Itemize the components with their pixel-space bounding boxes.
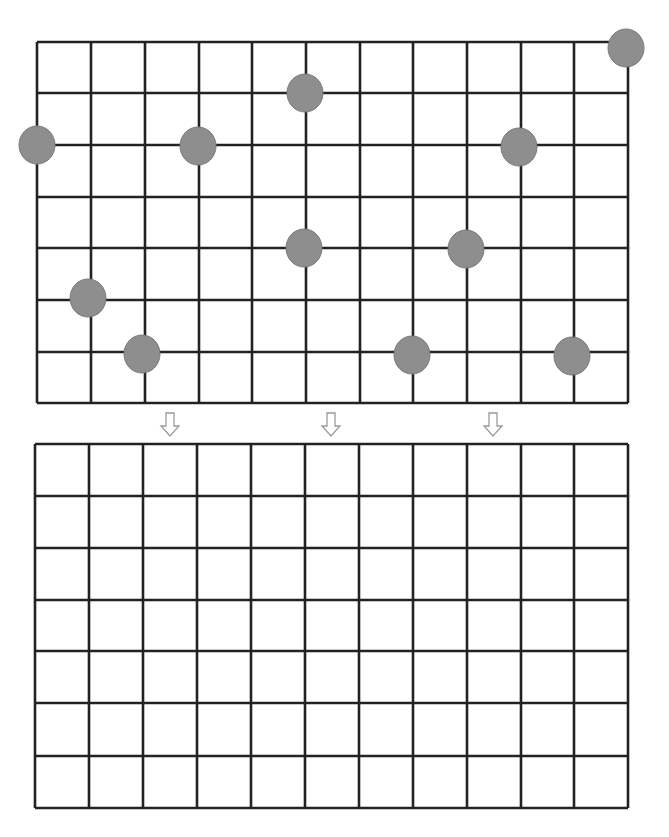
grid-dot [608,29,644,67]
grid-dot [287,74,323,112]
down-arrow-icon [161,413,179,436]
grid-dot [394,336,430,374]
grid-dot [180,127,216,165]
top-grid-dots [19,29,644,375]
grid-dot [124,335,160,373]
grid-dot [448,230,484,268]
down-arrow-icon [322,413,340,436]
diagram-canvas [0,0,669,837]
grid-dot [501,128,537,166]
down-arrow-icon [484,413,502,436]
down-arrows [161,413,502,436]
grid-dot [286,229,322,267]
grid-dot [19,126,55,164]
bottom-grid [35,444,628,808]
grid-dot [554,337,590,375]
grid-dot [70,279,106,317]
